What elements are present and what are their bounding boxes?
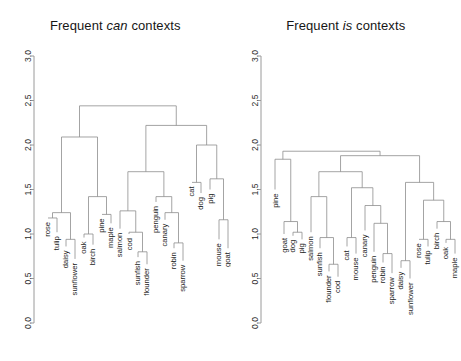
panel-is: Frequent is contexts 0.00.51.01.52.02.53… xyxy=(231,0,461,361)
dendrogram-link xyxy=(329,264,338,276)
y-tick-label: 3.0 xyxy=(23,50,33,62)
leaf-label: pine xyxy=(270,194,279,208)
y-tick-label: 3.0 xyxy=(250,50,260,62)
plot-area-is: 0.00.51.01.52.02.53.0pinegoatdogpigsalmo… xyxy=(231,0,461,361)
dendrogram-link xyxy=(318,172,361,197)
dendrogram-link xyxy=(53,213,71,240)
dendrogram-link xyxy=(62,137,98,213)
dendrogram-link xyxy=(128,172,164,211)
y-tick-label: 0.5 xyxy=(23,272,33,284)
leaf-label: birch xyxy=(432,233,441,249)
y-tick-label: 0.0 xyxy=(250,317,260,329)
leaf-label: pine xyxy=(98,218,107,232)
dendrogram-link xyxy=(146,125,207,171)
leaf-label: maple xyxy=(107,227,116,248)
leaf-label: salmon xyxy=(306,236,315,260)
leaf-label: mouse xyxy=(215,243,224,266)
dendrogram-link xyxy=(311,197,327,238)
dendrogram-link xyxy=(340,156,419,183)
leaf-label: daisy xyxy=(62,250,71,268)
leaf-label: sunflower xyxy=(405,282,414,315)
y-tick-label: 0.5 xyxy=(250,272,260,284)
leaf-label: canary xyxy=(161,224,170,247)
leaf-label: cod xyxy=(125,238,134,250)
y-tick-label: 2.0 xyxy=(250,139,260,151)
y-tick-label: 1.5 xyxy=(250,183,260,195)
y-tick-label: 2.5 xyxy=(250,94,260,106)
leaf-label: sparrow xyxy=(179,264,188,292)
leaf-label: canary xyxy=(360,234,369,257)
dendrogram-svg-is: 0.00.51.01.52.02.53.0pinegoatdogpigsalmo… xyxy=(231,0,461,361)
leaf-label: goat xyxy=(279,237,288,253)
dendrogram-link xyxy=(80,106,177,137)
y-tick-label: 0.0 xyxy=(23,317,33,329)
leaf-label: penguin xyxy=(152,206,161,233)
leaf-label: pig xyxy=(206,194,215,204)
leaf-label: oak xyxy=(441,247,450,259)
dendrogram-link xyxy=(197,145,217,182)
leaf-label: cod xyxy=(333,281,342,293)
dendrogram-link xyxy=(374,223,388,253)
leaf-label: penguin xyxy=(369,256,378,283)
leaf-label: cat xyxy=(188,186,197,197)
leaf-label: flounder xyxy=(143,268,152,296)
leaf-label: flounder xyxy=(324,275,333,303)
leaf-label: cat xyxy=(342,250,351,261)
plot-area-can: 0.00.51.01.52.02.53.0rosetulipdaisysunfl… xyxy=(0,0,231,361)
leaf-label: daisy xyxy=(396,272,405,290)
dendrogram-link xyxy=(293,232,302,239)
leaf-label: rose xyxy=(44,222,53,237)
leaf-label: mouse xyxy=(351,258,360,281)
leaf-label: salmon xyxy=(116,233,125,257)
dendrogram-figure: Frequent can contexts 0.00.51.01.52.02.5… xyxy=(0,0,461,361)
y-tick-label: 2.0 xyxy=(23,139,33,151)
leaf-label: tulip xyxy=(423,250,432,264)
dendrogram-link xyxy=(282,151,379,159)
leaf-label: robin xyxy=(170,252,179,269)
dendrogram-link xyxy=(120,211,136,232)
leaf-label: dog xyxy=(288,240,297,253)
y-tick-label: 1.0 xyxy=(23,228,33,240)
leaf-label: oak xyxy=(80,241,89,253)
y-tick-label: 1.5 xyxy=(23,183,33,195)
leaf-label: dog xyxy=(197,197,206,210)
dendrogram-link xyxy=(351,188,372,238)
leaf-label: sunfish xyxy=(134,261,143,285)
leaf-label: sunflower xyxy=(71,262,80,295)
leaf-label: maple xyxy=(450,258,459,279)
leaf-label: sparrow xyxy=(387,277,396,305)
leaf-label: robin xyxy=(378,266,387,283)
leaf-label: sunfish xyxy=(315,252,324,276)
panel-can: Frequent can contexts 0.00.51.01.52.02.5… xyxy=(0,0,231,361)
leaf-label: pig xyxy=(297,243,306,253)
y-tick-label: 1.0 xyxy=(250,228,260,240)
leaf-label: tulip xyxy=(53,236,62,250)
y-tick-label: 2.5 xyxy=(23,94,33,106)
leaf-label: rose xyxy=(414,243,423,258)
leaf-label: birch xyxy=(89,249,98,265)
dendrogram-link xyxy=(275,159,291,221)
dendrogram-svg-can: 0.00.51.01.52.02.53.0rosetulipdaisysunfl… xyxy=(0,0,231,361)
dendrogram-link xyxy=(365,206,381,231)
